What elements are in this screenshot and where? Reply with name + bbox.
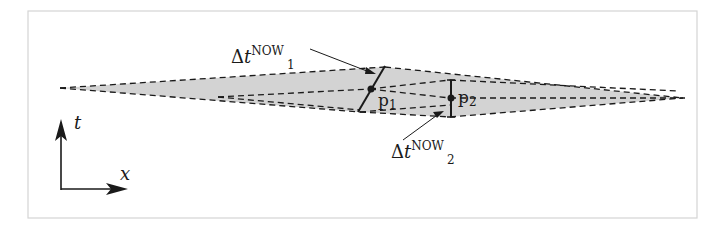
label-dt-now-1: ΔtNOW1 xyxy=(231,44,295,72)
figure-frame xyxy=(28,11,697,218)
label-dt-now-2: ΔtNOW2 xyxy=(391,139,455,167)
leader-dt2 xyxy=(403,113,440,140)
point-p2 xyxy=(448,95,455,102)
axis-x-label: x xyxy=(120,163,130,184)
diagram-canvas: ΔtNOW1 ΔtNOW2 p1 p2 t x xyxy=(0,0,721,234)
axis-t-label: t xyxy=(74,112,82,133)
point-p1 xyxy=(368,86,375,93)
